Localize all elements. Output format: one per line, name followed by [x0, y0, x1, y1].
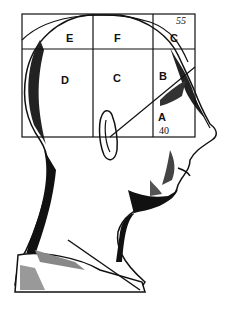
angle-label-40: 40: [159, 126, 169, 136]
angle-label-55: 55: [176, 16, 186, 26]
region-label-e: E: [66, 33, 73, 44]
region-label-f: F: [114, 33, 121, 44]
region-label-c-mid: C: [113, 73, 121, 84]
region-label-d: D: [61, 75, 69, 86]
region-label-a: A: [158, 112, 166, 123]
head-illustration: [0, 0, 236, 309]
region-label-c-top: C: [170, 33, 178, 44]
region-label-b: B: [159, 71, 167, 82]
